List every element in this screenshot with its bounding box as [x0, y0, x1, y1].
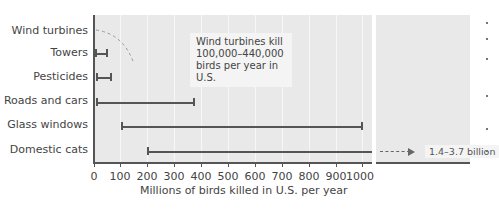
x-tick-label: 400	[191, 170, 212, 183]
arrowhead-icon	[408, 148, 415, 156]
x-tick	[94, 163, 95, 167]
wind-turbines-annotation: Wind turbines kill 100,000–440,000 birds…	[190, 33, 292, 87]
category-label: Towers	[50, 46, 88, 59]
x-tick	[282, 163, 283, 167]
category-label: Roads and cars	[4, 94, 88, 107]
bar-cap	[96, 98, 98, 106]
gridline	[362, 15, 363, 162]
bar-cap	[95, 49, 97, 57]
plot-area-extension	[376, 15, 470, 162]
x-tick-label: 700	[272, 170, 293, 183]
category-label: Glass windows	[7, 118, 88, 131]
edge-fragment	[486, 128, 488, 130]
x-axis	[93, 162, 372, 164]
gridline	[174, 15, 175, 162]
bar-cap	[193, 98, 195, 106]
bar-cap	[106, 49, 108, 57]
x-tick	[309, 163, 310, 167]
x-tick	[336, 163, 337, 167]
edge-fragment	[486, 58, 488, 60]
x-axis-title: Millions of birds killed in U.S. per yea…	[140, 184, 347, 197]
x-tick	[120, 163, 121, 167]
category-label: Domestic cats	[10, 143, 88, 156]
gridline	[147, 15, 148, 162]
bar-cap	[110, 73, 112, 81]
range-bar-pesticides	[96, 77, 111, 79]
x-tick-label: 800	[299, 170, 320, 183]
x-axis-extension	[376, 162, 470, 164]
x-tick-label: 200	[137, 170, 158, 183]
continuation-arrow	[380, 151, 410, 154]
range-bar-domestic-cats	[147, 151, 372, 153]
x-tick-label: 300	[164, 170, 185, 183]
bar-cap	[121, 122, 123, 130]
x-tick-label: 0	[91, 170, 98, 183]
x-tick-label: 100	[110, 170, 131, 183]
x-tick-label: 500	[218, 170, 239, 183]
bar-cap	[361, 122, 363, 130]
gridline	[309, 15, 310, 162]
edge-fragment	[486, 95, 488, 97]
range-bar-glass-windows	[121, 126, 362, 128]
edge-fragment	[486, 150, 488, 152]
range-bar-roads-and-cars	[96, 102, 193, 104]
x-tick	[362, 163, 363, 167]
wind-turbine-pointer	[94, 28, 139, 68]
x-tick-label: 600	[245, 170, 266, 183]
x-tick-label: 1000	[346, 170, 374, 183]
x-tick	[201, 163, 202, 167]
bar-cap	[96, 73, 98, 81]
x-tick	[228, 163, 229, 167]
gridline	[336, 15, 337, 162]
category-label: Wind turbines	[12, 24, 88, 37]
x-tick	[255, 163, 256, 167]
x-tick	[174, 163, 175, 167]
x-tick	[147, 163, 148, 167]
edge-fragment	[486, 38, 488, 40]
x-tick-label: 900	[326, 170, 347, 183]
category-label: Pesticides	[33, 70, 88, 83]
bar-cap	[147, 147, 149, 155]
edge-fragment	[486, 22, 488, 24]
